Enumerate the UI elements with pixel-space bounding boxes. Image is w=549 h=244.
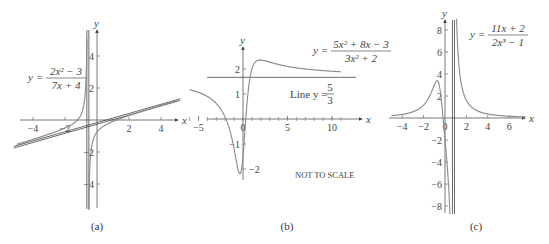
x-axis-label: x (181, 114, 187, 126)
equation-denominator: 2x³ − 1 (492, 36, 524, 48)
equation-denominator: 7x + 4 (52, 79, 81, 91)
equation-lhs: y = (469, 28, 485, 40)
equation-lhs: y = (312, 44, 328, 56)
equation-numerator: 2x² − 3 (50, 65, 83, 77)
x-tick-label: 4 (485, 121, 490, 132)
y-axis-label: y (239, 34, 245, 46)
y-axis-label: y (441, 7, 447, 19)
equation-lhs: y = (27, 71, 43, 83)
asymptote-label: Line y =53 (290, 81, 334, 106)
x-tick-label: −5 (193, 122, 204, 133)
equation-numerator: 11x + 2 (491, 22, 525, 34)
x-tick-label: −4 (397, 121, 408, 132)
panel-caption: (c) (470, 220, 483, 233)
figure: xy−4−224−4−224y =2x² − 37x + 4(a) xy−505… (0, 0, 549, 244)
panel-caption: (a) (91, 220, 104, 233)
y-tick-label: −1 (229, 139, 240, 150)
chart-panel-a: xy−4−224−4−224y =2x² − 37x + 4(a) (14, 17, 187, 233)
chart-panel-b: xy−50510−2−112y =5x² + 8x − 33x² + 2Line… (190, 34, 391, 233)
x-tick-label: 6 (507, 121, 512, 132)
y-tick-label: −8 (431, 201, 442, 212)
x-tick-label: 2 (127, 123, 132, 134)
x-tick-label: 2 (464, 121, 469, 132)
x-tick-label: 5 (285, 122, 290, 133)
equation-denominator: 3x² + 2 (344, 52, 378, 64)
y-tick-label: −2 (431, 135, 442, 146)
y-tick-label: 6 (437, 47, 442, 58)
panel-caption: (b) (281, 220, 294, 233)
function-curve (89, 101, 177, 210)
x-tick-label: −2 (418, 121, 429, 132)
svg-text:3: 3 (327, 94, 333, 106)
chart-panel-c: xy−4−20246−8−6−4−22468y =11x + 22x³ − 1(… (389, 7, 534, 233)
y-tick-label: 4 (89, 51, 94, 62)
x-axis-label: x (528, 112, 534, 124)
y-tick-label: 8 (437, 25, 442, 36)
equation-label: y =2x² − 37x + 4 (27, 65, 86, 91)
equation-label: y =11x + 22x³ − 1 (469, 22, 528, 48)
x-tick-label: 10 (327, 122, 337, 133)
y-tick-label: −2 (249, 164, 260, 175)
not-to-scale-note: NOT TO SCALE (295, 170, 355, 180)
y-tick-label: −6 (431, 179, 442, 190)
y-tick-label: 1 (235, 89, 240, 100)
x-axis-label: x (365, 113, 371, 125)
y-tick-label: 2 (89, 83, 94, 94)
y-axis-label: y (93, 17, 99, 29)
x-tick-label: 4 (159, 123, 164, 134)
y-tick-label: 2 (235, 64, 240, 75)
x-tick-label: −4 (28, 123, 39, 134)
function-curve (392, 81, 450, 214)
line-label-text: Line y = (290, 88, 327, 100)
y-tick-label: −4 (431, 157, 442, 168)
equation-numerator: 5x² + 8x − 3 (333, 38, 389, 50)
svg-text:5: 5 (327, 81, 333, 93)
equation-label: y =5x² + 8x − 33x² + 2 (312, 38, 391, 64)
y-tick-label: 4 (437, 69, 442, 80)
